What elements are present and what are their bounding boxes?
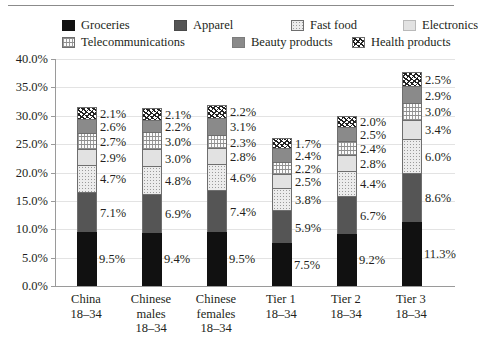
bar-segment-beauty-products[interactable]: 3.1% bbox=[207, 118, 227, 136]
bar-segment-health-products[interactable]: 2.0% bbox=[337, 116, 357, 127]
bar-segment-beauty-products[interactable]: 2.5% bbox=[337, 127, 357, 141]
bar-value-label: 9.5% bbox=[99, 253, 125, 265]
bar-value-label: 4.7% bbox=[100, 173, 126, 185]
bar-tier-3-18–34[interactable]: 11.3%8.6%6.0%3.4%3.0%2.9%2.5% bbox=[402, 72, 422, 286]
bar-value-label: 2.2% bbox=[295, 163, 321, 175]
legend-item-telecommunications[interactable]: Telecommunications bbox=[62, 36, 185, 49]
legend-swatch-icon bbox=[403, 20, 416, 31]
bar-value-label: 7.4% bbox=[230, 206, 256, 218]
bar-segment-electronics[interactable]: 2.8% bbox=[207, 148, 227, 164]
gridline bbox=[56, 87, 455, 88]
bar-segment-apparel[interactable]: 5.9% bbox=[272, 210, 292, 243]
bar-segment-fast-food[interactable]: 4.4% bbox=[337, 171, 357, 196]
y-axis-tick bbox=[51, 258, 56, 259]
x-axis-label-line: 18–34 bbox=[368, 307, 454, 322]
bar-tier-1-18–34[interactable]: 7.5%5.9%3.8%2.5%2.2%2.4%1.7% bbox=[272, 138, 292, 286]
y-axis-tick bbox=[51, 116, 56, 117]
y-axis-tick-label: 25.0% bbox=[16, 137, 48, 152]
bar-segment-electronics[interactable]: 3.0% bbox=[142, 149, 162, 166]
bar-chinese-males[interactable]: 9.4%6.9%4.8%3.0%3.0%2.2%2.1% bbox=[142, 108, 162, 286]
bar-segment-fast-food[interactable]: 4.6% bbox=[207, 164, 227, 190]
bar-value-label: 2.1% bbox=[100, 108, 126, 120]
bar-segment-groceries[interactable]: 11.3% bbox=[402, 222, 422, 286]
legend-label: Telecommunications bbox=[81, 36, 185, 49]
bar-segment-health-products[interactable]: 2.5% bbox=[402, 72, 422, 86]
bar-segment-groceries[interactable]: 9.5% bbox=[77, 232, 97, 286]
bar-value-label: 3.4% bbox=[425, 124, 451, 136]
bar-segment-apparel[interactable]: 6.7% bbox=[337, 196, 357, 234]
bar-value-label: 5.9% bbox=[295, 222, 321, 234]
bar-segment-health-products[interactable]: 2.1% bbox=[77, 107, 97, 119]
bar-segment-groceries[interactable]: 9.5% bbox=[207, 232, 227, 286]
legend-swatch-icon bbox=[174, 20, 187, 31]
bar-value-label: 2.8% bbox=[360, 158, 386, 170]
legend-label: Beauty products bbox=[251, 36, 333, 49]
bar-segment-groceries[interactable]: 9.2% bbox=[337, 234, 357, 286]
top-divider bbox=[8, 5, 454, 6]
bar-segment-groceries[interactable]: 7.5% bbox=[272, 243, 292, 286]
bar-segment-telecommunications[interactable]: 2.2% bbox=[272, 162, 292, 174]
legend-swatch-icon bbox=[62, 20, 75, 31]
bar-segment-electronics[interactable]: 3.4% bbox=[402, 120, 422, 139]
bar-segment-telecommunications[interactable]: 2.4% bbox=[337, 141, 357, 155]
bar-segment-apparel[interactable]: 7.1% bbox=[77, 192, 97, 232]
bar-segment-beauty-products[interactable]: 2.6% bbox=[77, 119, 97, 134]
legend-label: Apparel bbox=[193, 19, 233, 32]
plot-area: 9.5%7.1%4.7%2.9%2.7%2.6%2.1%9.4%6.9%4.8%… bbox=[55, 59, 454, 287]
bar-segment-health-products[interactable]: 2.2% bbox=[207, 105, 227, 117]
bar-segment-fast-food[interactable]: 6.0% bbox=[402, 139, 422, 173]
bar-value-label: 2.0% bbox=[360, 116, 386, 128]
bar-value-label: 6.9% bbox=[165, 208, 191, 220]
bar-china-18–34[interactable]: 9.5%7.1%4.7%2.9%2.7%2.6%2.1% bbox=[77, 107, 97, 286]
legend-item-beauty-products[interactable]: Beauty products bbox=[232, 36, 333, 49]
bar-segment-beauty-products[interactable]: 2.4% bbox=[272, 148, 292, 162]
y-axis-tick bbox=[51, 173, 56, 174]
bar-value-label: 2.9% bbox=[425, 90, 451, 102]
bar-segment-electronics[interactable]: 2.9% bbox=[77, 149, 97, 165]
bar-segment-telecommunications[interactable]: 2.7% bbox=[77, 133, 97, 148]
bar-segment-apparel[interactable]: 6.9% bbox=[142, 194, 162, 233]
bar-segment-beauty-products[interactable]: 2.9% bbox=[402, 86, 422, 102]
x-axis-label-group: Tier 318–34 bbox=[368, 292, 454, 321]
bar-segment-beauty-products[interactable]: 2.2% bbox=[142, 120, 162, 132]
legend-row: GroceriesApparelFast foodElectronics bbox=[62, 17, 454, 34]
bar-segment-telecommunications[interactable]: 3.0% bbox=[142, 132, 162, 149]
bar-value-label: 9.5% bbox=[229, 253, 255, 265]
bar-segment-health-products[interactable]: 2.1% bbox=[142, 108, 162, 120]
bar-segment-electronics[interactable]: 2.8% bbox=[337, 155, 357, 171]
y-axis-tick bbox=[51, 201, 56, 202]
x-axis-labels: China18–34Chinesemales18–34Chinesefemale… bbox=[55, 292, 454, 347]
legend-item-fast-food[interactable]: Fast food bbox=[291, 19, 357, 32]
bar-value-label: 4.8% bbox=[165, 175, 191, 187]
bar-segment-telecommunications[interactable]: 3.0% bbox=[402, 103, 422, 120]
bar-value-label: 2.4% bbox=[295, 150, 321, 162]
legend-item-health-products[interactable]: Health products bbox=[352, 36, 451, 49]
bar-segment-apparel[interactable]: 7.4% bbox=[207, 190, 227, 232]
bar-segment-electronics[interactable]: 2.5% bbox=[272, 174, 292, 188]
bar-value-label: 2.6% bbox=[100, 121, 126, 133]
bar-value-label: 2.1% bbox=[165, 109, 191, 121]
bar-segment-fast-food[interactable]: 4.8% bbox=[142, 166, 162, 193]
y-axis-tick-label: 5.0% bbox=[22, 251, 48, 266]
legend-item-groceries[interactable]: Groceries bbox=[62, 19, 130, 32]
y-axis-tick-label: 15.0% bbox=[16, 194, 48, 209]
bar-tier-2-18–34[interactable]: 9.2%6.7%4.4%2.8%2.4%2.5%2.0% bbox=[337, 116, 357, 286]
legend-swatch-icon bbox=[352, 37, 365, 48]
bar-value-label: 2.3% bbox=[230, 137, 256, 149]
bar-value-label: 11.3% bbox=[424, 248, 456, 260]
bar-segment-apparel[interactable]: 8.6% bbox=[402, 173, 422, 222]
y-axis-tick bbox=[51, 229, 56, 230]
bar-segment-fast-food[interactable]: 3.8% bbox=[272, 188, 292, 210]
bar-segment-health-products[interactable]: 1.7% bbox=[272, 138, 292, 148]
bar-value-label: 2.4% bbox=[360, 143, 386, 155]
legend-item-electronics[interactable]: Electronics bbox=[403, 19, 478, 32]
bar-segment-groceries[interactable]: 9.4% bbox=[142, 233, 162, 286]
bar-segment-fast-food[interactable]: 4.7% bbox=[77, 165, 97, 192]
legend-item-apparel[interactable]: Apparel bbox=[174, 19, 233, 32]
bar-value-label: 2.2% bbox=[165, 121, 191, 133]
legend-label: Fast food bbox=[310, 19, 357, 32]
bar-segment-telecommunications[interactable]: 2.3% bbox=[207, 135, 227, 148]
bar-chinese-females[interactable]: 9.5%7.4%4.6%2.8%2.3%3.1%2.2% bbox=[207, 105, 227, 286]
bar-value-label: 2.5% bbox=[360, 129, 386, 141]
bar-value-label: 2.5% bbox=[425, 74, 451, 86]
